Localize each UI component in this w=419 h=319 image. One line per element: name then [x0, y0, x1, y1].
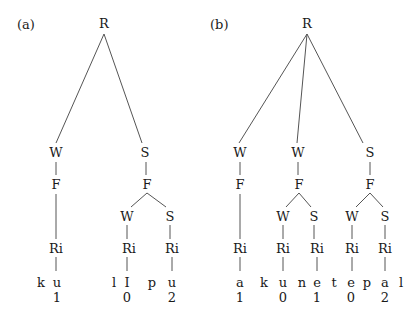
tree-node-s: S: [141, 145, 150, 160]
segment-letter: a: [381, 275, 389, 290]
segment-letter: l: [112, 275, 116, 290]
tree-edge: [239, 34, 307, 143]
tree-node-w: W: [276, 209, 290, 224]
tone-number: 0: [347, 290, 355, 305]
tree-node-s: S: [310, 209, 319, 224]
tree-node-f: F: [142, 177, 151, 192]
tree-node-w: W: [291, 145, 305, 160]
tree-node-r: R: [99, 16, 110, 31]
tone-number: 2: [168, 290, 176, 305]
tree-edge: [147, 193, 166, 207]
segment-letter: e: [347, 275, 355, 290]
tree-node-w: W: [49, 145, 63, 160]
tree-node-s: S: [366, 145, 375, 160]
panel-b-tree: (b)RWWSFFFWSWSRiRiRiRiRiakunetepal10102: [210, 16, 403, 305]
tree-edge: [56, 34, 104, 143]
tree-edge: [131, 193, 147, 207]
tree-node-ri: Ri: [345, 241, 359, 256]
segment-letter: k: [37, 275, 45, 290]
tree-edge: [297, 34, 307, 143]
segment-letter: u: [279, 275, 287, 290]
tree-edge: [104, 34, 142, 143]
tone-number: 1: [313, 290, 321, 305]
tree-node-f: F: [365, 177, 374, 192]
segment-letter: p: [363, 275, 371, 290]
tree-node-w: W: [233, 145, 247, 160]
segment-letter: t: [331, 275, 337, 290]
tree-node-f: F: [294, 177, 303, 192]
tree-node-ri: Ri: [233, 241, 247, 256]
tree-node-f: F: [235, 177, 244, 192]
tree-node-ri: Ri: [165, 241, 179, 256]
tree-node-ri: Ri: [49, 241, 63, 256]
segment-letter: u: [53, 275, 61, 290]
tone-number: 0: [123, 290, 131, 305]
tree-node-s: S: [381, 209, 390, 224]
tree-node-s: S: [166, 209, 175, 224]
tree-node-ri: Ri: [276, 241, 290, 256]
tree-node-ri: Ri: [122, 241, 136, 256]
panel-label-a: (a): [17, 17, 35, 32]
panel-label-b: (b): [210, 17, 228, 32]
segment-letter: n: [298, 275, 307, 290]
segment-letter: p: [148, 275, 156, 290]
tree-edge: [299, 193, 311, 207]
segment-letter: k: [260, 275, 268, 290]
segment-letter: e: [313, 275, 321, 290]
segment-letter: u: [168, 275, 176, 290]
tree-node-w: W: [345, 209, 359, 224]
tone-number: 0: [279, 290, 287, 305]
tree-node-r: R: [302, 16, 313, 31]
tree-edge: [286, 193, 299, 207]
tree-edge: [370, 193, 383, 207]
tree-diagram-canvas: (a)RWSFFWSRiRiRikulIpu102 (b)RWWSFFFWSWS…: [0, 0, 419, 319]
tree-node-ri: Ri: [378, 241, 392, 256]
segment-letter: I: [124, 275, 129, 290]
tree-node-f: F: [51, 177, 60, 192]
tree-node-w: W: [120, 209, 134, 224]
tone-number: 1: [53, 290, 61, 305]
segment-letter: l: [399, 275, 403, 290]
tree-edge: [356, 193, 370, 207]
tree-edge: [307, 34, 363, 143]
tree-node-ri: Ri: [310, 241, 324, 256]
tone-number: 2: [381, 290, 389, 305]
panel-a-tree: (a)RWSFFWSRiRiRikulIpu102: [17, 16, 179, 305]
tone-number: 1: [236, 290, 244, 305]
segment-letter: a: [236, 275, 244, 290]
